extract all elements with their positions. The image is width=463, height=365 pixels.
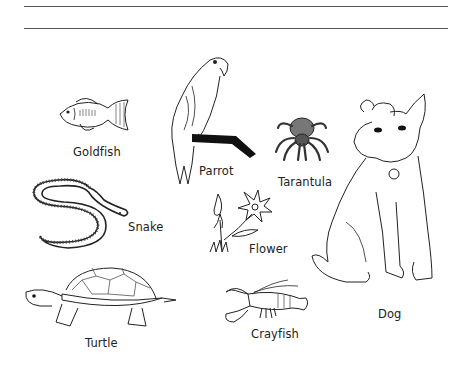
- turtle-illustration: [22, 264, 170, 334]
- turtle-label: Turtle: [85, 336, 118, 350]
- answer-line-2: [24, 28, 448, 29]
- answer-line-1: [24, 6, 448, 7]
- goldfish-illustration: [58, 96, 132, 136]
- goldfish-label: Goldfish: [73, 145, 121, 159]
- crayfish-label: Crayfish: [251, 327, 299, 341]
- snake-label: Snake: [128, 220, 163, 234]
- dog-illustration: [306, 92, 446, 292]
- flower-label: Flower: [249, 242, 288, 256]
- snake-illustration: [28, 176, 132, 252]
- dog-label: Dog: [378, 307, 402, 321]
- crayfish-illustration: [222, 278, 312, 324]
- parrot-label: Parrot: [199, 164, 234, 178]
